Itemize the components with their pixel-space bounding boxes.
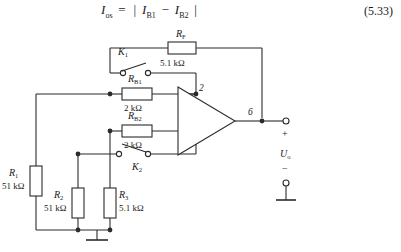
resistor-r3-body [104,188,116,218]
resistor-r1-value: 51 kΩ [2,181,25,191]
resistor-r1-label: R1 [8,167,18,179]
k1-right-contact [145,70,150,75]
k2-right-contact [145,151,150,156]
resistor-rb2-body [122,125,152,137]
output-voltage-label: Uo [280,148,290,160]
equation-number: (5.33) [364,4,393,19]
resistor-r1-body [30,166,42,196]
k1-blade[interactable] [122,63,146,71]
resistor-rb1-body [122,88,152,100]
equation-bar-close: | [192,2,199,17]
switch-k2-label: K2 [131,161,142,173]
output-plus-sign: + [282,128,288,139]
equation-lhs-subscript: os [106,11,113,20]
equation-minus: − [159,2,171,17]
node-bottom-r2 [76,228,81,233]
equation-expression: Ios = | IB1 − IB2 | [0,2,300,20]
equation-term2-subscript: B2 [179,11,188,20]
output-terminal-positive[interactable] [283,118,289,124]
resistor-rf-label: RF [175,28,186,40]
resistor-r3-label: R3 [118,189,128,201]
opamp-pin2-number: 2 [199,83,204,93]
equation-term1-subscript: B1 [147,11,156,20]
equation-row: Ios = | IB1 − IB2 | (5.33) [0,0,401,28]
resistor-rf-body [168,42,196,54]
resistor-r2-label: R2 [53,189,63,201]
k2-left-contact [116,151,121,156]
equation-bar-open: | [131,2,138,17]
resistor-rb1-label: RB1 [127,73,142,85]
node-bottom-r3 [108,228,113,233]
resistor-r2-body [72,188,84,218]
resistor-r2-value: 51 kΩ [44,203,67,213]
resistor-r3-value: 5.1 kΩ [119,203,144,213]
equation-equals: = [116,2,128,17]
opamp-pin6-number: 6 [248,107,253,117]
resistor-rf-value: 5.1 kΩ [160,58,185,68]
output-terminal-negative[interactable] [283,180,289,186]
opamp-triangle [178,87,235,155]
node-rb2-left [108,129,113,134]
output-minus-sign: − [282,163,288,174]
figure-page: Ios = | IB1 − IB2 | (5.33) RF 5.1 kΩ K1 [0,0,401,252]
circuit-schematic: RF 5.1 kΩ K1 RB1 2 kΩ 2 − RB2 2 kΩ 3 + [0,26,401,252]
